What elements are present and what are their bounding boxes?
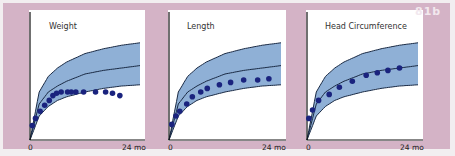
x-tick-start-length: 0	[168, 143, 173, 152]
data-point	[73, 89, 79, 95]
chart-plot	[168, 10, 286, 141]
x-tick-end-head-circumference: 24 mo	[400, 143, 424, 152]
data-point	[326, 92, 332, 98]
data-point	[33, 116, 39, 122]
data-point	[255, 77, 261, 83]
data-point	[385, 68, 391, 74]
data-point	[173, 113, 179, 119]
percentile-band	[307, 43, 418, 140]
data-point	[184, 101, 190, 107]
data-point	[117, 93, 123, 99]
data-point	[363, 72, 369, 78]
data-point	[169, 122, 175, 128]
chart-panel-length	[168, 10, 286, 141]
data-point	[177, 108, 183, 114]
data-point	[350, 78, 356, 84]
x-tick-start-head-circumference: 0	[306, 143, 311, 152]
data-point	[397, 65, 403, 71]
data-point	[58, 89, 64, 95]
data-point	[204, 86, 210, 92]
data-point	[37, 108, 43, 114]
data-point	[316, 98, 322, 104]
data-point	[93, 89, 99, 95]
data-point	[306, 116, 312, 122]
data-point	[81, 89, 87, 95]
chart-panel-weight	[29, 10, 145, 141]
data-point	[217, 82, 223, 88]
data-point	[241, 77, 247, 83]
data-point	[228, 80, 234, 86]
data-point	[42, 102, 48, 108]
x-tick-end-weight: 24 mo	[122, 143, 146, 152]
data-point	[375, 70, 381, 76]
data-point	[337, 84, 343, 90]
chart-plot	[29, 10, 145, 141]
chart-title-length: Length	[187, 22, 215, 31]
data-point	[190, 94, 196, 100]
percentile-band	[169, 43, 281, 140]
data-point	[46, 98, 52, 104]
chart-title-head-circumference: Head Circumference	[325, 22, 407, 31]
data-point	[266, 76, 272, 82]
data-point	[110, 90, 116, 96]
x-tick-start-weight: 0	[28, 143, 33, 152]
x-tick-end-length: 24 mo	[262, 143, 286, 152]
data-point	[29, 123, 35, 129]
data-point	[198, 89, 204, 95]
data-point	[310, 107, 316, 113]
data-point	[103, 89, 109, 95]
chart-title-weight: Weight	[49, 22, 77, 31]
figure-tag: 81b	[415, 5, 441, 18]
